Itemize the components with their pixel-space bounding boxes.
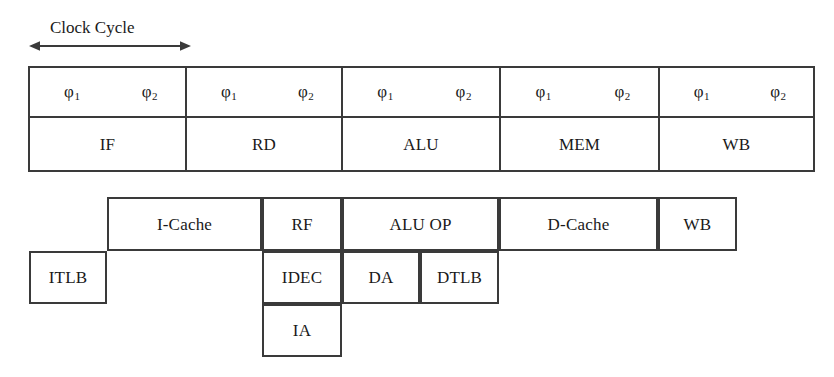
phase2-label-RD: φ2 <box>298 82 313 102</box>
clock-cycle-label: Clock Cycle <box>50 18 135 38</box>
unit-box-itlb: ITLB <box>29 251 107 304</box>
stage-cell-RD: RD <box>185 116 343 172</box>
stage-cell-MEM: MEM <box>499 116 660 172</box>
stage-cell-ALU: ALU <box>341 116 501 172</box>
phase2-label-IF: φ2 <box>142 82 157 102</box>
phase1-label-WB: φ1 <box>694 82 709 102</box>
unit-box-d-cache: D-Cache <box>499 197 658 251</box>
unit-box-ia: IA <box>262 304 342 357</box>
unit-box-da: DA <box>342 251 420 304</box>
phase1-label-RD: φ1 <box>221 82 236 102</box>
unit-box-rf: RF <box>262 197 342 251</box>
clock-cycle-arrow-icon <box>24 36 196 56</box>
phase-cell-WB: φ1 φ2 <box>658 66 815 118</box>
unit-box-idec: IDEC <box>262 251 342 304</box>
unit-box-alu-op: ALU OP <box>342 197 499 251</box>
stage-cell-IF: IF <box>28 116 187 172</box>
phase-cell-ALU: φ1 φ2 <box>341 66 501 118</box>
pipeline-diagram-figure: Clock Cycle φ1 φ2 φ1 φ2 φ1 φ2 φ1 <box>0 0 834 377</box>
phase-cell-RD: φ1 φ2 <box>185 66 343 118</box>
phase2-label-MEM: φ2 <box>614 82 629 102</box>
stage-cell-WB: WB <box>658 116 815 172</box>
phase2-label-ALU: φ2 <box>456 82 471 102</box>
phase1-label-ALU: φ1 <box>377 82 392 102</box>
phase2-label-WB: φ2 <box>770 82 785 102</box>
unit-box-wb: WB <box>658 197 737 251</box>
unit-box-dtlb: DTLB <box>420 251 499 304</box>
phase-cell-MEM: φ1 φ2 <box>499 66 660 118</box>
unit-box-i-cache: I-Cache <box>107 197 262 251</box>
phase-cell-IF: φ1 φ2 <box>28 66 187 118</box>
phase1-label-MEM: φ1 <box>536 82 551 102</box>
phase1-label-IF: φ1 <box>64 82 79 102</box>
